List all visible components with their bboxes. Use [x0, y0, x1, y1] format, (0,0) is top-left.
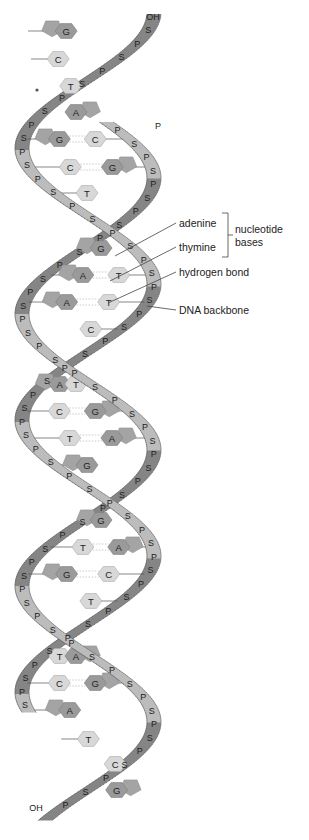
nucleotide-base-C: C	[98, 567, 120, 582]
nucleotide-base-T: T	[98, 295, 120, 310]
svg-text:S: S	[90, 214, 96, 224]
svg-text:S: S	[147, 733, 153, 743]
nucleotide-base-G: G	[106, 780, 141, 798]
svg-text:S: S	[77, 247, 83, 257]
svg-text:A: A	[116, 542, 123, 553]
nucleotide-base-A: A	[58, 265, 93, 283]
svg-text:P: P	[19, 314, 25, 324]
svg-text:G: G	[62, 26, 69, 37]
svg-text:S: S	[42, 544, 48, 554]
nucleotide-base-C: C	[84, 132, 106, 147]
svg-text:T: T	[88, 596, 94, 607]
svg-text:P: P	[151, 552, 157, 562]
svg-text:P: P	[30, 390, 36, 400]
svg-text:P: P	[59, 93, 65, 103]
svg-text:C: C	[92, 134, 99, 145]
svg-text:P: P	[112, 395, 118, 405]
dna-double-helix-diagram: GCTAGCCGTGATATCATCGTAGGTAGCTTACGATCG SPS…	[0, 0, 309, 840]
svg-text:S: S	[80, 517, 86, 527]
svg-text:P: P	[133, 206, 139, 216]
svg-text:C: C	[67, 162, 74, 173]
svg-text:G: G	[92, 678, 99, 689]
svg-text:P: P	[139, 525, 145, 535]
nucleotide-base-A: A	[42, 292, 77, 310]
svg-text:P: P	[69, 201, 75, 211]
svg-text:S: S	[42, 106, 48, 116]
svg-text:S: S	[25, 328, 31, 338]
svg-text:S: S	[144, 193, 150, 203]
svg-text:A: A	[73, 107, 80, 118]
svg-text:C: C	[87, 324, 94, 335]
svg-text:G: G	[63, 569, 70, 580]
svg-text:S: S	[127, 679, 133, 689]
nucleotide-base-C: C	[47, 52, 69, 67]
svg-text:C: C	[56, 406, 63, 417]
svg-text:P: P	[137, 746, 143, 756]
svg-text:S: S	[131, 139, 137, 149]
svg-text:P: P	[115, 125, 121, 135]
svg-text:P: P	[105, 606, 111, 616]
svg-text:S: S	[24, 160, 30, 170]
svg-text:S: S	[125, 511, 131, 521]
svg-text:G: G	[97, 243, 104, 254]
nucleotide-base-T: T	[80, 594, 102, 609]
svg-text:S: S	[150, 166, 156, 176]
nucleotide-base-G: G	[42, 564, 77, 582]
label-bases: bases	[235, 236, 263, 248]
svg-text:S: S	[146, 463, 152, 473]
nucleotide-base-C: C	[48, 676, 70, 691]
svg-text:P: P	[62, 363, 68, 373]
svg-text:A: A	[109, 433, 116, 444]
svg-text:P: P	[138, 579, 144, 589]
svg-text:S: S	[22, 403, 28, 413]
svg-text:S: S	[122, 760, 128, 770]
svg-text:S: S	[116, 220, 122, 230]
svg-text:S: S	[79, 79, 85, 89]
svg-text:C: C	[105, 569, 112, 580]
nucleotide-base-T: T	[72, 540, 94, 555]
svg-text:S: S	[48, 457, 54, 467]
svg-text:P: P	[102, 336, 108, 346]
svg-text:C: C	[112, 759, 119, 770]
svg-text:P: P	[69, 638, 75, 648]
svg-text:C: C	[56, 678, 63, 689]
svg-text:P: P	[60, 530, 66, 540]
svg-text:A: A	[57, 379, 64, 390]
svg-text:S: S	[24, 598, 30, 608]
svg-text:S: S	[148, 565, 154, 575]
strand-end-top-right: P	[155, 121, 161, 131]
svg-text:S: S	[52, 355, 58, 365]
svg-text:P: P	[151, 449, 157, 459]
svg-text:G: G	[109, 162, 116, 173]
label-nucleotide: nucleotide	[235, 223, 283, 235]
svg-text:S: S	[145, 25, 151, 35]
svg-text:S: S	[89, 652, 95, 662]
svg-text:T: T	[80, 542, 86, 553]
svg-text:P: P	[142, 422, 148, 432]
svg-text:A: A	[63, 297, 70, 308]
nucleotide-base-T: T	[59, 431, 81, 446]
nucleotide-base-C: C	[80, 322, 102, 337]
svg-text:P: P	[36, 341, 42, 351]
svg-text:P: P	[97, 233, 103, 243]
strand-end-bottom: OH	[29, 803, 43, 813]
svg-text:P: P	[71, 368, 77, 378]
svg-text:T: T	[67, 433, 73, 444]
svg-text:S: S	[149, 268, 155, 278]
nucleotide-base-A: A	[65, 102, 100, 120]
svg-text:S: S	[46, 646, 52, 656]
svg-text:S: S	[129, 409, 135, 419]
svg-text:P: P	[103, 773, 109, 783]
nucleotide-base-C: C	[59, 160, 81, 175]
svg-text:S: S	[124, 592, 130, 602]
svg-text:S: S	[118, 52, 124, 62]
nucleotide-base-T: T	[77, 732, 99, 747]
svg-text:P: P	[35, 174, 41, 184]
svg-text:S: S	[44, 376, 50, 386]
svg-text:S: S	[147, 295, 153, 305]
svg-text:S: S	[127, 241, 133, 251]
svg-text:P: P	[135, 476, 141, 486]
nucleotide-base-T: T	[76, 186, 98, 201]
svg-text:P: P	[28, 120, 34, 130]
svg-text:G: G	[113, 785, 120, 796]
